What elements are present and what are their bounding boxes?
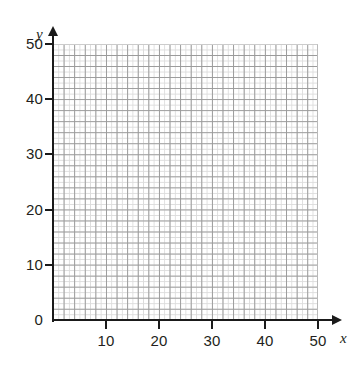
x-axis-tick: [158, 321, 160, 329]
y-axis-tick-label: 20: [0, 201, 43, 218]
y-axis-tick: [45, 153, 53, 155]
y-axis-tick-label: 40: [0, 90, 43, 107]
grid-frame: [53, 44, 318, 320]
x-axis-line: [53, 319, 334, 321]
x-axis-tick-label: 40: [245, 332, 285, 349]
x-axis-tick: [264, 321, 266, 329]
x-axis-tick: [105, 321, 107, 329]
y-axis-tick: [45, 43, 53, 45]
x-axis-tick: [317, 321, 319, 329]
y-axis-tick: [45, 209, 53, 211]
y-axis-tick: [45, 98, 53, 100]
y-axis-line: [52, 34, 54, 322]
plot-area: [53, 44, 318, 320]
y-axis-tick: [45, 264, 53, 266]
x-axis-tick-label: 30: [192, 332, 232, 349]
x-axis-tick-label: 10: [86, 332, 126, 349]
coordinate-grid-figure: y x 010203040501020304050: [0, 0, 358, 366]
y-axis-tick-label: 0: [0, 311, 43, 328]
y-axis-tick-label: 10: [0, 256, 43, 273]
x-axis-arrowhead-icon: [332, 315, 342, 325]
grid-minor-lines: [53, 44, 318, 320]
x-axis-tick-label: 50: [298, 332, 338, 349]
y-axis-tick-label: 30: [0, 145, 43, 162]
x-axis-label: x: [340, 330, 347, 347]
y-axis-tick-label: 50: [0, 35, 43, 52]
x-axis-tick-label: 20: [139, 332, 179, 349]
grid-major-lines: [53, 44, 318, 320]
y-axis-arrowhead-icon: [48, 26, 58, 36]
x-axis-tick: [211, 321, 213, 329]
